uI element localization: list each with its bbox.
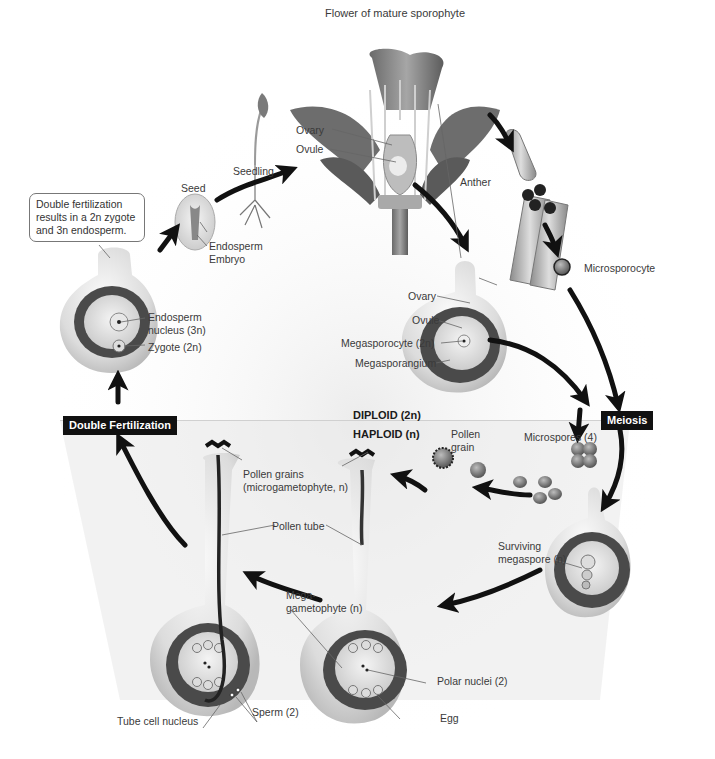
label-endosperm: Endosperm	[209, 240, 263, 252]
label-pollen-grain-2: grain	[451, 441, 474, 453]
callout-line-2: results in a 2n zygote	[36, 211, 138, 224]
label-seed: Seed	[181, 182, 206, 194]
label-ovule: Ovule	[412, 314, 439, 326]
label-pollen-grain-1: Pollen	[451, 428, 480, 440]
label-megagametophyte-1: Mega-	[286, 589, 316, 601]
label-sperm: Sperm (2)	[252, 706, 299, 718]
label-polar-nuclei: Polar nuclei (2)	[437, 675, 508, 687]
label-pollen-tube: Pollen tube	[272, 520, 325, 532]
double-fertilization-callout: Double fertilization results in a 2n zyg…	[29, 193, 145, 242]
label-seedling: Seedling	[233, 165, 274, 177]
label-flower-ovary: Ovary	[296, 124, 324, 136]
label-microspores: Microspores (4)	[524, 431, 597, 443]
label-microsporocyte: Microsporocyte	[584, 262, 655, 274]
double-fertilization-tag: Double Fertilization	[63, 416, 177, 435]
label-surviving-megaspore-2: megaspore (n)	[498, 553, 566, 565]
label-pollen-grains-2: (microgametophyte, n)	[243, 481, 348, 493]
label-megagametophyte-2: gametophyte (n)	[286, 602, 362, 614]
flower-title: Flower of mature sporophyte	[325, 7, 465, 19]
callout-line-1: Double fertilization	[36, 198, 138, 211]
haploid-label: HAPLOID (n)	[353, 428, 420, 440]
label-pollen-grains-1: Pollen grains	[243, 468, 304, 480]
label-surviving-megaspore-1: Surviving	[498, 540, 541, 552]
label-endosperm-nucleus-2: nucleus (3n)	[148, 324, 206, 336]
callout-line-3: and 3n endosperm.	[36, 224, 138, 237]
label-endosperm-nucleus-1: Endosperm	[148, 311, 202, 323]
label-embryo: Embryo	[209, 253, 245, 265]
meiosis-tag: Meiosis	[601, 411, 653, 430]
label-anther: Anther	[460, 176, 491, 188]
diploid-label: DIPLOID (2n)	[353, 409, 421, 421]
life-cycle-artwork	[0, 0, 715, 759]
label-megasporocyte: Megasporocyte (2n)	[341, 337, 434, 349]
pollen-grain	[433, 448, 453, 468]
label-zygote: Zygote (2n)	[148, 341, 202, 353]
microsporocyte-cell	[554, 259, 570, 275]
angiosperm-life-cycle-diagram: Flower of mature sporophyte Double ferti…	[0, 0, 715, 759]
label-flower-ovule: Ovule	[296, 143, 323, 155]
label-tube-cell-nucleus: Tube cell nucleus	[117, 715, 198, 727]
label-megasporangium: Megasporangium	[355, 357, 436, 369]
label-ovary: Ovary	[408, 290, 436, 302]
label-egg: Egg	[440, 712, 459, 724]
